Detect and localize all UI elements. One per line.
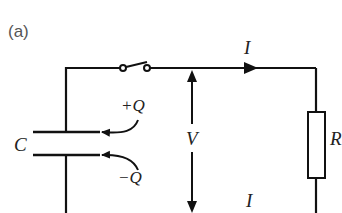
top-wire bbox=[150, 62, 316, 74]
capacitor-icon bbox=[33, 132, 100, 155]
voltage-label: V bbox=[186, 128, 200, 149]
switch-icon bbox=[120, 62, 150, 71]
right-wire bbox=[308, 68, 325, 213]
current-arrow-icon bbox=[244, 62, 258, 74]
resistor-icon bbox=[308, 112, 325, 178]
panel-label: (a) bbox=[8, 22, 29, 41]
capacitance-label: C bbox=[14, 134, 27, 155]
current-label-bottom: I bbox=[245, 190, 254, 211]
resistance-label: R bbox=[329, 128, 342, 149]
charge-negative-label: −Q bbox=[118, 168, 142, 187]
charge-positive-label: +Q bbox=[121, 96, 145, 115]
current-label-top: I bbox=[243, 37, 252, 58]
charge-arrows bbox=[102, 120, 138, 170]
circuit-diagram: (a) I R C bbox=[0, 0, 342, 213]
left-wire bbox=[66, 68, 121, 213]
